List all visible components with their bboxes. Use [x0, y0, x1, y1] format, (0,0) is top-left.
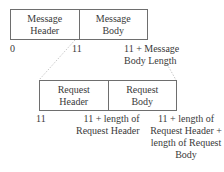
offset-11: 11	[72, 43, 82, 55]
request-body-cell: Request Body	[108, 81, 177, 110]
offset-0: 0	[10, 43, 15, 55]
request-box: Request Header Request Body	[39, 80, 177, 111]
request-offset-11: 11	[36, 113, 46, 125]
message-header-cell: Message Header	[11, 10, 79, 39]
message-body-cell: Message Body	[79, 10, 148, 39]
request-offset-header-end: 11 + length of Request Header	[76, 113, 140, 137]
request-offset-body-end: 11 + length of Request Header + length o…	[148, 113, 224, 161]
dotted-line-left	[39, 40, 75, 80]
offset-message-end: 11 + Message Body Length	[124, 43, 179, 67]
message-box: Message Header Message Body	[10, 9, 148, 40]
request-header-cell: Request Header	[40, 81, 108, 110]
